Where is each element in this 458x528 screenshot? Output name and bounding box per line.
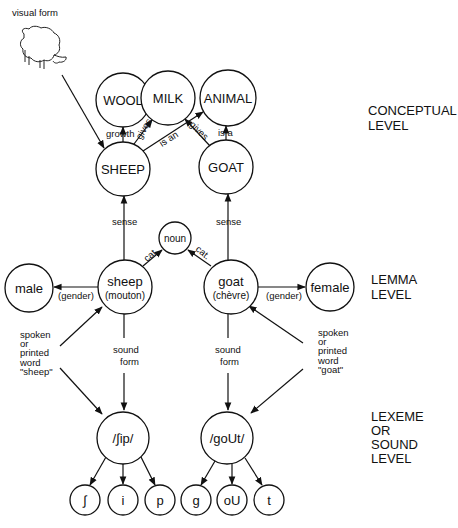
edges: [54, 75, 305, 485]
gives-goat-label: gives: [188, 119, 212, 143]
svg-text:noun: noun: [164, 233, 186, 244]
svg-text:i: i: [122, 493, 125, 508]
is-a-label: is a: [218, 127, 234, 138]
is-an-label: is an: [157, 129, 180, 149]
gender-goat-label: (gender): [266, 290, 302, 301]
sheep-drawing-icon: [20, 26, 66, 69]
svg-text:/goUt/: /goUt/: [210, 431, 245, 446]
svg-text:(mouton): (mouton): [105, 290, 145, 301]
phoneme-p: p: [145, 485, 175, 515]
svg-text:goat: goat: [218, 274, 244, 289]
concept-milk: MILK: [141, 71, 195, 125]
cat-sheep-label: cat.: [141, 245, 160, 263]
cat-goat-label: cat.: [194, 243, 213, 261]
input-word-goat: spoken or printed word "goat": [317, 327, 349, 375]
sound-form-goat-label-1: sound: [215, 344, 241, 355]
svg-text:MILK: MILK: [153, 91, 184, 106]
lemma-noun: noun: [159, 222, 191, 254]
svg-text:LEMMA: LEMMA: [371, 272, 418, 287]
lemma-level-label: LEMMA LEVEL: [371, 272, 418, 302]
phoneme-sh: ∫: [70, 485, 100, 515]
svg-text:LEVEL: LEVEL: [371, 451, 411, 466]
concept-sheep: SHEEP: [96, 142, 150, 196]
gender-sheep-label: (gender): [58, 290, 94, 301]
lemma-male: male: [5, 264, 53, 312]
svg-text:g: g: [192, 493, 199, 508]
svg-text:t: t: [267, 493, 271, 508]
input-word-sheep: spoken or printed word "sheep": [19, 329, 53, 377]
sense-sheep-label: sense: [112, 216, 137, 227]
sound-form-sheep-label-2: form: [120, 356, 139, 367]
svg-text:OR: OR: [371, 423, 391, 438]
phoneme-t: t: [254, 485, 284, 515]
lexical-network-diagram: visual form growth gives is a: [0, 0, 458, 528]
visual-form-label: visual form: [12, 7, 58, 18]
svg-text:female: female: [310, 280, 349, 295]
concept-goat: GOAT: [199, 140, 253, 194]
lemma-goat: goat(chèvre): [204, 260, 258, 314]
svg-text:LEXEME: LEXEME: [371, 409, 424, 424]
svg-text:LEVEL: LEVEL: [371, 287, 411, 302]
svg-text:"goat": "goat": [318, 364, 343, 375]
svg-text:WOOL: WOOL: [103, 93, 143, 108]
svg-text:SOUND: SOUND: [371, 437, 418, 452]
svg-text:p: p: [156, 493, 163, 508]
sense-goat-label: sense: [216, 216, 241, 227]
phoneme-i: i: [108, 485, 138, 515]
phoneme-g: g: [181, 485, 211, 515]
svg-text:male: male: [15, 281, 43, 296]
svg-text:"sheep": "sheep": [20, 366, 53, 377]
sound-form-goat-label-2: form: [220, 356, 239, 367]
concept-animal: ANIMAL: [200, 70, 256, 126]
growth-label: growth: [106, 128, 135, 139]
lexeme-sheep: /∫ip/: [97, 412, 149, 464]
lemma-sheep: sheep(mouton): [98, 260, 152, 314]
svg-text:GOAT: GOAT: [208, 160, 244, 175]
lemma-female: female: [306, 263, 354, 311]
svg-text:oU: oU: [224, 493, 241, 508]
svg-text:(chèvre): (chèvre): [213, 290, 250, 301]
lexeme-goat: /goUt/: [201, 412, 253, 464]
lexeme-level-label: LEXEME OR SOUND LEVEL: [371, 409, 424, 466]
conceptual-level-label: CONCEPTUAL LEVEL: [368, 103, 457, 133]
svg-text:LEVEL: LEVEL: [368, 118, 408, 133]
svg-text:/∫ip/: /∫ip/: [113, 431, 134, 446]
phoneme-ou: oU: [217, 485, 247, 515]
svg-text:ANIMAL: ANIMAL: [204, 91, 252, 106]
sound-form-sheep-label-1: sound: [113, 344, 139, 355]
svg-text:SHEEP: SHEEP: [101, 162, 145, 177]
svg-text:sheep: sheep: [107, 274, 142, 289]
svg-text:CONCEPTUAL: CONCEPTUAL: [368, 103, 457, 118]
